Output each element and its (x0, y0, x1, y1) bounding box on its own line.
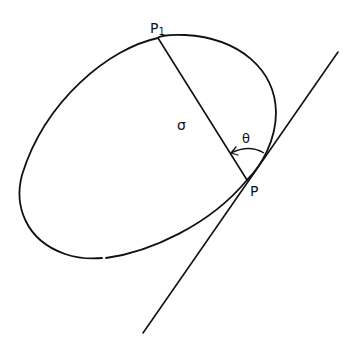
oval-curve (20, 35, 276, 259)
tangent-line (143, 52, 338, 333)
label-sigma: σ (177, 117, 186, 133)
diagram-svg: P1 P σ θ (0, 0, 354, 351)
label-p1: P1 (150, 20, 165, 37)
theta-arc (231, 149, 264, 154)
diagram-canvas: P1 P σ θ (0, 0, 354, 351)
chord-sigma (158, 38, 247, 180)
label-p: P (250, 183, 258, 199)
label-theta: θ (242, 131, 250, 146)
